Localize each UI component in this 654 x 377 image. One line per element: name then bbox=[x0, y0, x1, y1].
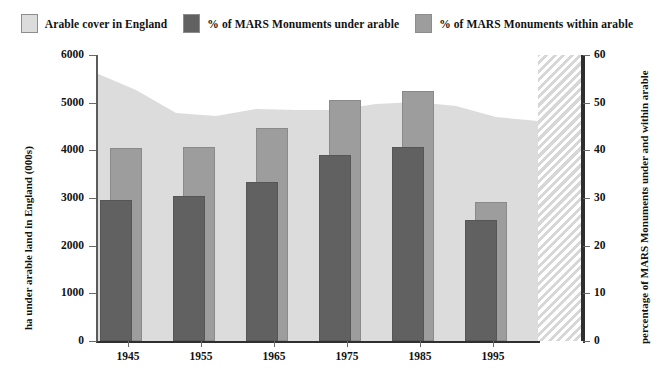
tick-right-10 bbox=[583, 293, 590, 294]
tick-x-1975 bbox=[347, 341, 348, 347]
tick-right-0 bbox=[583, 341, 590, 342]
chart-figure: Arable cover in England % of MARS Monume… bbox=[0, 0, 654, 377]
bars-layer bbox=[96, 55, 538, 341]
hatched-projection-band bbox=[538, 55, 583, 341]
tick-right-20 bbox=[583, 246, 590, 247]
tick-x-1965 bbox=[274, 341, 275, 347]
tick-left-6000 bbox=[89, 55, 96, 56]
bar-under-1945[interactable] bbox=[100, 200, 132, 341]
legend-swatch-icon bbox=[21, 14, 38, 33]
tick-left-3000 bbox=[89, 198, 96, 199]
tick-label-right-10: 10 bbox=[594, 286, 620, 298]
right-axis-line bbox=[583, 55, 585, 343]
tick-right-60 bbox=[583, 55, 590, 56]
tick-label-left-5000: 5000 bbox=[32, 96, 84, 108]
bar-under-1965[interactable] bbox=[246, 182, 278, 341]
tick-label-right-20: 20 bbox=[594, 239, 620, 251]
tick-label-x-1975: 1975 bbox=[317, 350, 377, 362]
tick-right-30 bbox=[583, 198, 590, 199]
tick-x-1955 bbox=[201, 341, 202, 347]
bar-under-1955[interactable] bbox=[173, 196, 205, 341]
bar-under-1995[interactable] bbox=[465, 220, 497, 341]
tick-label-x-1955: 1955 bbox=[171, 350, 231, 362]
legend-item-monuments-within-arable[interactable]: % of MARS Monuments within arable bbox=[415, 14, 633, 33]
legend-item-monuments-under-arable[interactable]: % of MARS Monuments under arable bbox=[183, 14, 399, 33]
tick-label-x-1995: 1995 bbox=[463, 350, 523, 362]
tick-label-left-6000: 6000 bbox=[32, 48, 84, 60]
left-axis-title: ha under arable land in England (000s) bbox=[22, 146, 34, 330]
tick-label-right-0: 0 bbox=[594, 334, 620, 346]
bar-under-1985[interactable] bbox=[392, 147, 424, 341]
tick-label-left-4000: 4000 bbox=[32, 143, 84, 155]
tick-label-left-3000: 3000 bbox=[32, 191, 84, 203]
tick-left-2000 bbox=[89, 246, 96, 247]
tick-x-1995 bbox=[493, 341, 494, 347]
tick-x-1945 bbox=[128, 341, 129, 347]
tick-label-left-1000: 1000 bbox=[32, 286, 84, 298]
legend-label: % of MARS Monuments within arable bbox=[439, 18, 633, 30]
legend-item-arable-cover[interactable]: Arable cover in England bbox=[21, 14, 168, 33]
tick-left-0 bbox=[89, 341, 96, 342]
tick-label-right-50: 50 bbox=[594, 96, 620, 108]
tick-left-5000 bbox=[89, 103, 96, 104]
tick-x-1985 bbox=[420, 341, 421, 347]
legend-swatch-icon bbox=[415, 14, 432, 33]
right-axis-title: percentage of MARS Monuments under and w… bbox=[638, 70, 650, 344]
chart-legend: Arable cover in England % of MARS Monume… bbox=[0, 14, 654, 33]
tick-label-x-1985: 1985 bbox=[390, 350, 450, 362]
tick-label-right-30: 30 bbox=[594, 191, 620, 203]
legend-swatch-icon bbox=[183, 14, 200, 33]
tick-right-50 bbox=[583, 103, 590, 104]
tick-label-x-1965: 1965 bbox=[244, 350, 304, 362]
tick-label-left-2000: 2000 bbox=[32, 239, 84, 251]
bar-under-1975[interactable] bbox=[319, 155, 351, 341]
tick-right-40 bbox=[583, 150, 590, 151]
tick-label-left-0: 0 bbox=[32, 334, 84, 346]
legend-label: Arable cover in England bbox=[45, 18, 168, 30]
tick-label-x-1945: 1945 bbox=[98, 350, 158, 362]
tick-label-right-60: 60 bbox=[594, 48, 620, 60]
legend-label: % of MARS Monuments under arable bbox=[207, 18, 399, 30]
tick-left-4000 bbox=[89, 150, 96, 151]
tick-left-1000 bbox=[89, 293, 96, 294]
tick-label-right-40: 40 bbox=[594, 143, 620, 155]
